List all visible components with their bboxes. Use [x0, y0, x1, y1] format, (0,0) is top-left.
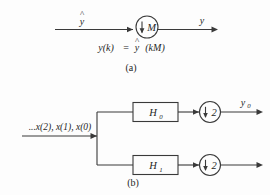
part-a-output-label: y: [199, 15, 205, 26]
part-b-branch0-downsampler-circle: [200, 102, 221, 123]
part-b-branch0-output-label: y: [240, 97, 246, 108]
part-b-input-arrowhead: [91, 133, 98, 139]
part-a-output-arrowhead: [212, 27, 219, 33]
part-b-branch1-filter-label: H: [148, 160, 158, 171]
part-a-equation-lhs: y(k): [97, 42, 114, 54]
part-b-branch0-output-arrowhead: [257, 109, 264, 115]
block-diagram-svg: y ^ M y y(k) = y ^ (kM) (a) ...x(2), x(1…: [0, 0, 270, 195]
part-b-branch1-output-arrowhead: [257, 162, 264, 168]
part-b-branch1-downsampler-factor: 2: [211, 160, 217, 171]
part-b-branch0-filter-label: H: [148, 107, 158, 118]
part-a-equation-equals: =: [123, 42, 129, 53]
figure-container: y ^ M y y(k) = y ^ (kM) (a) ...x(2), x(1…: [0, 0, 270, 195]
part-b-branch0-filter-sub: 0: [159, 113, 163, 120]
part-a-caption: (a): [125, 62, 136, 74]
part-b-group: [22, 102, 263, 176]
part-b-branch1-mid-arrowhead: [193, 162, 199, 167]
part-a-downsampler-factor: M: [146, 22, 157, 33]
part-b-branch0-mid-arrowhead: [193, 109, 199, 114]
part-a-equation-rhs-arg: (kM): [145, 42, 165, 54]
part-b-branch1-filter-sub: 1: [159, 166, 162, 173]
part-b-branch1-downsampler-circle: [200, 155, 221, 176]
part-b-input-label: ...x(2), x(1), x(0): [29, 122, 92, 133]
part-b-caption: (b): [127, 177, 139, 189]
part-b-branch0-downsampler-factor: 2: [211, 107, 217, 118]
part-b-branch0-output-sub: 0: [247, 102, 251, 109]
part-a-input-arrowhead: [127, 27, 133, 32]
